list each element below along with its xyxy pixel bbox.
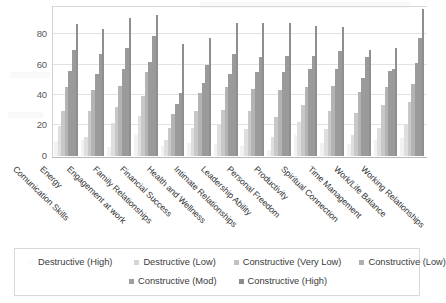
- legend-swatch: [134, 260, 139, 265]
- bar-group: [187, 6, 214, 156]
- legend-label: Destructive (Low): [143, 258, 215, 267]
- bar: [182, 44, 184, 157]
- bar: [262, 23, 264, 157]
- legend-swatch: [29, 260, 34, 265]
- legend-item[interactable]: Constructive (Low): [359, 258, 446, 267]
- bar: [342, 27, 344, 156]
- legend-item[interactable]: Destructive (High): [29, 258, 112, 267]
- bar-groups: [54, 6, 427, 156]
- bar: [289, 23, 291, 157]
- legend-item[interactable]: Constructive (High): [239, 277, 328, 286]
- y-tick-0: 0: [42, 149, 47, 160]
- bar-group: [54, 6, 81, 156]
- legend-row-2: Constructive (Mod)Constructive (High): [21, 272, 413, 291]
- y-tick-80: 80: [37, 28, 47, 39]
- legend-swatch: [239, 279, 244, 284]
- bar-group: [400, 6, 427, 156]
- legend-label: Constructive (Low): [368, 258, 446, 267]
- bar: [129, 18, 131, 156]
- bar-group: [240, 6, 267, 156]
- bar-group: [214, 6, 241, 156]
- bar: [236, 23, 238, 157]
- plot-wrapper: 80 60 40 20 0 Comunication SkillsEnergyE…: [0, 6, 432, 166]
- bar-group: [81, 6, 108, 156]
- bar-group: [320, 6, 347, 156]
- plot-area: [52, 6, 427, 158]
- legend-item[interactable]: Constructive (Very Low): [234, 258, 342, 267]
- legend-item[interactable]: Constructive (Mod): [129, 277, 217, 286]
- y-axis: 80 60 40 20 0: [22, 6, 50, 158]
- bar: [369, 50, 371, 157]
- bar-group: [347, 6, 374, 156]
- bar: [102, 29, 104, 157]
- legend: Destructive (High)Destructive (Low)Const…: [14, 248, 420, 296]
- y-tick-20: 20: [37, 119, 47, 130]
- bar: [315, 26, 317, 157]
- bar: [395, 48, 397, 156]
- legend-label: Constructive (Very Low): [243, 258, 342, 267]
- bar-group: [134, 6, 161, 156]
- legend-item[interactable]: Destructive (Low): [134, 258, 215, 267]
- legend-label: Destructive (High): [38, 258, 112, 267]
- legend-swatch: [234, 260, 239, 265]
- bar: [209, 38, 211, 157]
- bar-group: [107, 6, 134, 156]
- bar: [76, 24, 78, 156]
- bar-group: [161, 6, 188, 156]
- y-tick-60: 60: [37, 58, 47, 69]
- legend-row-1: Destructive (High)Destructive (Low)Const…: [21, 253, 413, 272]
- legend-label: Constructive (Mod): [138, 277, 217, 286]
- y-tick-40: 40: [37, 89, 47, 100]
- legend-swatch: [129, 279, 134, 284]
- legend-swatch: [359, 260, 364, 265]
- bar-group: [267, 6, 294, 156]
- bar: [422, 9, 424, 156]
- bar-group: [294, 6, 321, 156]
- bar-group: [374, 6, 401, 156]
- bar: [156, 15, 158, 156]
- legend-label: Constructive (High): [248, 277, 328, 286]
- x-axis-labels: Comunication SkillsEnergyEngagement at w…: [52, 164, 427, 244]
